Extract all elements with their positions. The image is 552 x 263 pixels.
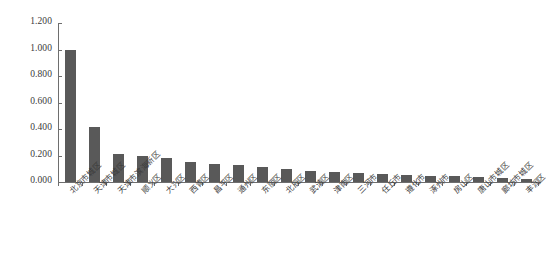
bar-slot	[346, 23, 370, 182]
bar-slot	[202, 23, 226, 182]
y-axis-tick-label: 1.000	[30, 43, 52, 53]
bar-slot	[394, 23, 418, 182]
bar-slot	[250, 23, 274, 182]
bar-slot	[178, 23, 202, 182]
bar-chart: 1.2001.0000.8000.6000.4000.2000.000 北京市城…	[0, 0, 552, 263]
bar-slot	[490, 23, 514, 182]
y-axis-tick-label: 0.600	[30, 96, 52, 106]
bar-slot	[226, 23, 250, 182]
bar-slot	[58, 23, 82, 182]
y-axis-tick-label: 0.000	[30, 175, 52, 185]
plot-area	[58, 23, 538, 182]
x-axis-tick-mark	[58, 182, 59, 186]
y-axis-tick-label: 0.800	[30, 69, 52, 79]
bar	[257, 167, 268, 182]
bar-slot	[298, 23, 322, 182]
bar-slot	[442, 23, 466, 182]
bar-slot	[322, 23, 346, 182]
bar-slot	[82, 23, 106, 182]
bar	[281, 169, 292, 182]
y-axis-tick-label: 0.200	[30, 149, 52, 159]
bar-slot	[514, 23, 538, 182]
bar-slot	[418, 23, 442, 182]
bar-slot	[274, 23, 298, 182]
bar	[65, 50, 76, 183]
y-axis-tick-label: 0.400	[30, 122, 52, 132]
bar-slot	[370, 23, 394, 182]
bar-slot	[106, 23, 130, 182]
bar-slot	[466, 23, 490, 182]
y-axis-tick-label: 1.200	[30, 16, 52, 26]
